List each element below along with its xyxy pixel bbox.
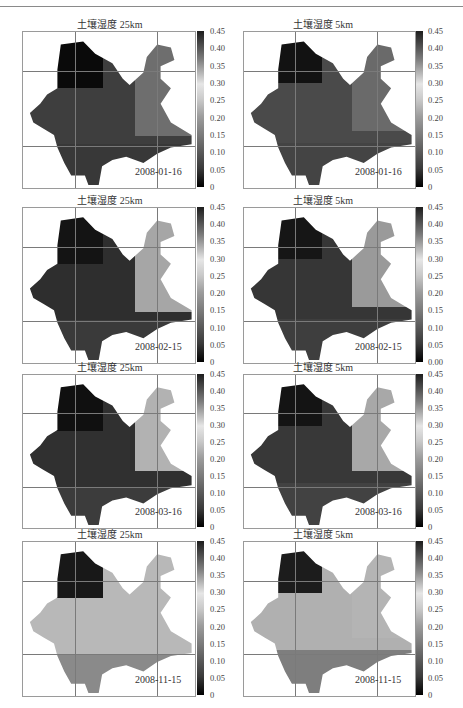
colorbar	[197, 541, 204, 695]
gridline-vertical	[75, 208, 76, 363]
colorbar	[416, 207, 423, 362]
gridline-horizontal	[244, 247, 415, 248]
colorbar-tick-label: 0.20	[428, 288, 443, 298]
colorbar-tick-label: 0.25	[428, 95, 443, 105]
colorbar-tick-label: 0.40	[428, 43, 443, 53]
soil-moisture-map	[23, 542, 195, 696]
colorbar-tick-label: 0	[210, 522, 214, 532]
colorbar	[416, 541, 423, 695]
colorbar-tick-label: 0.25	[210, 437, 225, 447]
panel-title: 土壤湿度 5km	[283, 359, 363, 374]
colorbar-tick-label: 0.15	[210, 639, 225, 649]
map-frame: 2008-11-15	[22, 541, 196, 697]
date-label: 2008-02-15	[355, 341, 402, 352]
gridline-horizontal	[23, 581, 195, 582]
colorbar-tick-label: 0.35	[210, 236, 225, 246]
colorbar-tick-label: 0.35	[210, 403, 225, 413]
colorbar-tick-label: 0.20	[428, 622, 443, 632]
colorbar-tick-label: 0.40	[428, 553, 443, 563]
colorbar-tick-label: 0.25	[210, 95, 225, 105]
soil-moisture-map	[244, 208, 415, 363]
colorbar-tick-label: 0.25	[428, 604, 443, 614]
colorbar-tick-label: 0.25	[210, 604, 225, 614]
colorbar-tick-label: 0.40	[210, 386, 225, 396]
gridline-horizontal	[244, 581, 415, 582]
soil-moisture-map	[23, 208, 195, 363]
colorbar-tick-label: 0.15	[210, 305, 225, 315]
colorbar-tick-label: 0.10	[428, 656, 443, 666]
soil-moisture-map	[23, 32, 195, 188]
colorbar-tick-label: 0.45	[210, 202, 225, 212]
colorbar-tick-label: 0.45	[428, 202, 443, 212]
gridline-horizontal	[23, 654, 195, 655]
colorbar-tick-label: 0.35	[428, 403, 443, 413]
colorbar-tick-label: 0.35	[210, 61, 225, 71]
gridline-vertical	[295, 208, 296, 363]
colorbar-tick-label: 0.20	[428, 454, 443, 464]
gridline-horizontal	[244, 654, 415, 655]
colorbar-tick-label: 0.05	[428, 505, 443, 515]
map-frame: 2008-02-15	[22, 207, 196, 364]
gridline-vertical	[377, 208, 378, 363]
panel-title: 土壤湿度 25km	[70, 526, 150, 541]
colorbar-tick-label: 0.20	[210, 454, 225, 464]
map-frame: 2008-11-15	[243, 541, 416, 697]
colorbar-tick-label: 0.05	[210, 505, 225, 515]
colorbar	[416, 374, 423, 527]
colorbar-tick-label: 0.35	[428, 61, 443, 71]
gridline-horizontal	[244, 487, 415, 488]
gridline-vertical	[377, 32, 378, 188]
colorbar-tick-label: 0.05	[428, 165, 443, 175]
colorbar-tick-label: 0.45	[210, 369, 225, 379]
colorbar-tick-label: 0.15	[210, 471, 225, 481]
colorbar-tick-label: 0.45	[210, 536, 225, 546]
colorbar-tick-label: 0.40	[428, 386, 443, 396]
colorbar-tick-label: 0.10	[428, 147, 443, 157]
gridline-horizontal	[244, 413, 415, 414]
colorbar-tick-label: 0.40	[210, 219, 225, 229]
colorbar-tick-label: 0.25	[210, 271, 225, 281]
gridline-vertical	[157, 208, 158, 363]
colorbar-tick-label: 0.25	[428, 437, 443, 447]
date-label: 2008-11-15	[135, 674, 181, 685]
colorbar-tick-label: 0.05	[428, 673, 443, 683]
gridline-horizontal	[23, 487, 195, 488]
panel-title: 土壤湿度 25km	[70, 16, 150, 31]
colorbar-tick-label: 0.20	[428, 113, 443, 123]
date-label: 2008-03-16	[135, 506, 182, 517]
panel-title: 土壤湿度 25km	[70, 192, 150, 207]
colorbar-tick-label: 0.30	[210, 254, 225, 264]
gridline-horizontal	[244, 321, 415, 322]
gridline-horizontal	[23, 321, 195, 322]
soil-moisture-map	[244, 32, 415, 188]
gridline-horizontal	[244, 146, 415, 147]
gridline-horizontal	[23, 413, 195, 414]
gridline-vertical	[157, 32, 158, 188]
map-frame: 2008-03-16	[243, 374, 416, 529]
colorbar-tick-label: 0.15	[428, 471, 443, 481]
colorbar-tick-label: 0.10	[428, 488, 443, 498]
colorbar-tick-label: 0	[210, 357, 214, 367]
colorbar-tick-label: 0.30	[428, 78, 443, 88]
map-frame: 2008-01-16	[243, 31, 416, 189]
colorbar-tick-label: 0.30	[428, 254, 443, 264]
colorbar	[197, 31, 204, 187]
colorbar-tick-label: 0.25	[428, 271, 443, 281]
colorbar-tick-label: 0.20	[210, 288, 225, 298]
colorbar-tick-label: 0.10	[428, 323, 443, 333]
colorbar-tick-label: 0.45	[428, 369, 443, 379]
colorbar-tick-label: 0.15	[210, 130, 225, 140]
colorbar-tick-label: 0.00	[428, 357, 443, 367]
colorbar-tick-label: 0.35	[428, 570, 443, 580]
colorbar-tick-label: 0.05	[210, 165, 225, 175]
gridline-vertical	[75, 375, 76, 528]
colorbar-tick-label: 0.30	[210, 78, 225, 88]
colorbar-tick-label: 0.30	[210, 420, 225, 430]
gridline-horizontal	[23, 247, 195, 248]
colorbar-tick-label: 0.40	[210, 553, 225, 563]
colorbar-tick-label: 0	[210, 690, 214, 700]
colorbar	[416, 31, 423, 187]
colorbar-tick-label: 0.35	[210, 570, 225, 580]
map-frame: 2008-02-15	[243, 207, 416, 364]
date-label: 2008-01-16	[135, 166, 182, 177]
